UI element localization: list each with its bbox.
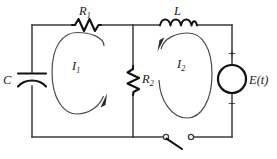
voltage-source-symbol — [218, 65, 246, 93]
source-minus-sign: − — [228, 96, 236, 111]
mesh-loop-I2 — [158, 33, 213, 118]
label-L: L — [173, 4, 181, 18]
switch-symbol[interactable] — [163, 134, 193, 149]
capacitor-C-symbol — [18, 74, 46, 87]
label-R2: R2 — [141, 72, 154, 88]
switch-blade — [167, 139, 183, 149]
circuit-diagram: R1 L C R2 E(t) + − I1 I2 — [0, 0, 277, 159]
label-C: C — [3, 73, 12, 87]
switch-terminal-right — [188, 134, 193, 139]
schematic-canvas: R1 L C R2 E(t) + − I1 I2 — [0, 0, 277, 159]
label-R1: R1 — [78, 4, 91, 20]
resistor-R2-symbol — [128, 66, 140, 95]
label-E-of-t: E(t) — [248, 73, 268, 87]
inductor-L-symbol — [160, 20, 197, 26]
label-I1: I1 — [71, 59, 80, 75]
resistor-R1-symbol — [72, 19, 101, 31]
source-plus-sign: + — [228, 46, 236, 61]
label-I2: I2 — [176, 57, 185, 73]
